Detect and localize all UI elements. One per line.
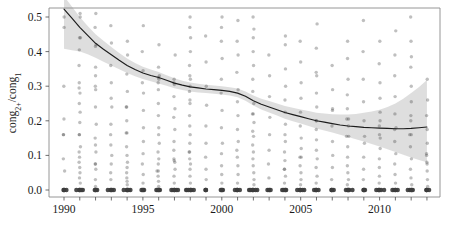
data-point: [425, 161, 428, 164]
data-point: [379, 136, 382, 139]
data-point: [220, 152, 223, 155]
data-point: [78, 12, 81, 15]
data-point: [394, 152, 397, 155]
data-point: [142, 109, 145, 112]
data-point: [425, 114, 428, 117]
data-point: [157, 102, 160, 105]
y-tick-label: 0.5: [28, 11, 43, 23]
data-point: [362, 119, 365, 122]
data-point: [220, 40, 223, 43]
data-point: [409, 176, 412, 179]
data-point: [173, 128, 176, 131]
data-point: [315, 71, 318, 74]
data-point: [188, 168, 191, 171]
data-point: [94, 162, 97, 165]
data-point: [346, 155, 349, 158]
data-point-zero-cluster: [93, 188, 97, 192]
data-point: [188, 174, 191, 177]
data-point: [362, 178, 365, 181]
data-point: [204, 60, 207, 63]
data-point: [109, 143, 112, 146]
data-point: [109, 97, 112, 100]
data-point: [299, 183, 302, 186]
data-point: [158, 142, 161, 145]
data-point: [79, 181, 82, 184]
data-point: [110, 162, 113, 165]
data-point-zero-cluster: [409, 188, 413, 192]
data-point: [252, 36, 255, 39]
data-point: [268, 74, 271, 77]
data-point: [205, 85, 208, 88]
data-point: [78, 121, 81, 124]
data-point: [188, 26, 191, 29]
data-point: [94, 150, 97, 153]
data-point: [299, 171, 302, 174]
data-point: [331, 140, 334, 143]
data-point-zero-cluster: [283, 188, 287, 192]
data-point-zero-cluster: [251, 188, 255, 192]
data-point: [204, 34, 207, 37]
data-point: [157, 126, 160, 129]
data-point: [410, 183, 413, 186]
data-point: [425, 152, 428, 155]
data-point: [174, 53, 177, 56]
data-point: [315, 91, 318, 94]
data-point: [141, 69, 144, 72]
data-point: [300, 147, 303, 150]
data-point: [299, 81, 302, 84]
data-point: [204, 155, 207, 158]
data-point-zero-cluster: [156, 188, 160, 192]
data-point: [252, 27, 255, 30]
data-point: [62, 26, 65, 29]
data-point: [251, 157, 254, 160]
data-point: [173, 168, 176, 171]
data-point: [236, 181, 239, 184]
data-point: [94, 143, 97, 146]
data-point: [184, 188, 188, 192]
data-point: [409, 65, 412, 68]
data-point: [94, 74, 97, 77]
data-point: [284, 43, 287, 46]
data-point: [109, 123, 112, 126]
data-point: [315, 74, 318, 77]
data-point: [77, 150, 80, 153]
data-point: [188, 142, 191, 145]
data-point: [188, 74, 191, 77]
data-point: [109, 171, 112, 174]
data-point: [219, 91, 222, 94]
data-point: [410, 85, 413, 88]
data-point-zero-cluster: [78, 188, 82, 192]
data-point: [378, 81, 381, 84]
data-point: [346, 78, 349, 81]
data-point: [220, 164, 223, 167]
data-point: [315, 105, 318, 108]
data-point: [220, 26, 223, 29]
data-point: [247, 188, 251, 192]
data-point: [205, 104, 208, 107]
data-point: [409, 168, 412, 171]
data-point: [268, 133, 271, 136]
data-point: [330, 64, 333, 67]
data-point-zero-cluster: [314, 188, 318, 192]
data-point-zero-cluster: [109, 188, 113, 192]
data-point: [382, 188, 386, 192]
data-point-zero-cluster: [62, 188, 66, 192]
data-point: [126, 183, 129, 186]
data-point: [350, 188, 354, 192]
data-point-zero-cluster: [204, 188, 208, 192]
data-point: [62, 157, 65, 160]
data-point: [94, 12, 97, 15]
data-point: [284, 174, 287, 177]
data-point: [204, 124, 207, 127]
x-tick-label: 2010: [368, 203, 391, 215]
data-point: [315, 149, 318, 152]
data-point: [125, 119, 128, 122]
data-point: [126, 53, 129, 56]
data-point-zero-cluster: [299, 188, 303, 192]
data-point: [142, 140, 145, 143]
data-point: [188, 133, 191, 136]
data-point: [393, 95, 396, 98]
data-point: [188, 102, 191, 105]
data-point: [408, 133, 411, 136]
data-point: [267, 53, 270, 56]
